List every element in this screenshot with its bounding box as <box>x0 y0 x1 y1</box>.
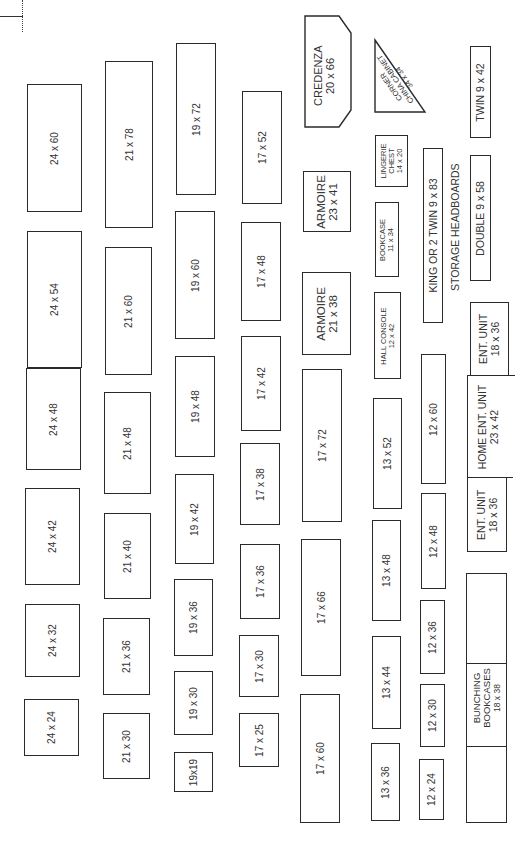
piece-label: 17 x 38 <box>255 468 266 501</box>
piece-label: 19 x 42 <box>189 503 200 536</box>
piece-17x48[interactable]: 17 x 48 <box>241 222 281 321</box>
piece-19x72[interactable]: 19 x 72 <box>176 43 216 195</box>
piece-label: 24 x 60 <box>49 132 60 165</box>
piece-12x30[interactable]: 12 x 30 <box>420 684 445 747</box>
piece-label: 12 x 30 <box>427 699 438 732</box>
piece-label: 21 x 40 <box>122 540 133 573</box>
credenza-label: CREDENZA 20 x 66 <box>312 46 336 106</box>
piece-label: TWIN 9 x 42 <box>475 63 486 121</box>
piece-24x60[interactable]: 24 x 60 <box>27 84 82 212</box>
ent-unit-top-tick <box>508 375 515 376</box>
piece-label: 17 x 48 <box>256 255 267 288</box>
piece-12x36[interactable]: 12 x 36 <box>420 600 445 674</box>
piece-label: 19 x 60 <box>190 259 201 292</box>
piece-17x42[interactable]: 17 x 42 <box>241 336 281 431</box>
piece-ent-unit-bottom[interactable]: ENT. UNIT18 x 36 <box>467 477 507 552</box>
piece-label: 21 x 48 <box>122 427 133 460</box>
piece-24x54[interactable]: 24 x 54 <box>27 231 82 368</box>
piece-label: 12 x 60 <box>428 403 439 436</box>
piece-21x40[interactable]: 21 x 40 <box>104 513 151 599</box>
piece-label: ARMOIRE21 x 38 <box>315 287 339 341</box>
piece-label: 13 x 44 <box>381 666 392 699</box>
piece-13x36[interactable]: 13 x 36 <box>371 743 400 821</box>
piece-label: 17 x 52 <box>257 131 268 164</box>
piece-19x42[interactable]: 19 x 42 <box>175 474 214 564</box>
piece-13x48[interactable]: 13 x 48 <box>372 520 401 621</box>
piece-13x44[interactable]: 13 x 44 <box>372 636 401 729</box>
piece-24x24[interactable]: 24 x 24 <box>24 699 79 756</box>
piece-label: DOUBLE 9 x 58 <box>475 181 486 256</box>
piece-label: 17 x 36 <box>255 565 266 598</box>
credenza-name: CREDENZA <box>312 46 324 106</box>
piece-21x48[interactable]: 21 x 48 <box>104 392 151 494</box>
piece-19x19[interactable]: 19x19 <box>174 752 213 792</box>
piece-ent-unit-top[interactable]: ENT. UNIT18 x 36 <box>470 302 509 376</box>
piece-label: 19 x 36 <box>188 601 199 634</box>
bunching-divider-2 <box>466 746 507 747</box>
piece-label: 24 x 54 <box>49 283 60 316</box>
piece-19x36[interactable]: 19 x 36 <box>174 579 213 656</box>
piece-double-headboard[interactable]: DOUBLE 9 x 58 <box>470 155 491 281</box>
piece-label: 19 x 72 <box>191 103 202 136</box>
piece-twin-headboard[interactable]: TWIN 9 x 42 <box>470 46 491 138</box>
piece-label: 17 x 60 <box>315 742 326 775</box>
piece-armoire-21x38[interactable]: ARMOIRE21 x 38 <box>302 272 351 355</box>
piece-king-headboard[interactable]: KING OR 2 TWIN 9 x 83 <box>423 148 443 323</box>
piece-label: 12 x 36 <box>427 621 438 654</box>
piece-19x60[interactable]: 19 x 60 <box>175 211 215 339</box>
piece-17x52[interactable]: 17 x 52 <box>242 91 282 204</box>
piece-label: 24 x 42 <box>47 520 58 553</box>
piece-bookcase[interactable]: BOOKCASE11 x 34 <box>375 202 399 277</box>
piece-bunching-bookcases[interactable]: BUNCHING BOOKCASES 18 x 38 <box>466 573 507 823</box>
piece-21x78[interactable]: 21 x 78 <box>105 61 153 228</box>
piece-17x72[interactable]: 17 x 72 <box>302 369 342 522</box>
corner-crop-mark <box>0 0 23 17</box>
piece-label: 13 x 36 <box>380 766 391 799</box>
piece-label: ENT. UNIT18 x 36 <box>478 314 502 364</box>
bunching-divider-1 <box>466 663 507 664</box>
piece-12x48[interactable]: 12 x 48 <box>421 493 446 589</box>
piece-label: 12 x 24 <box>426 773 437 806</box>
piece-label: 21 x 36 <box>121 640 132 673</box>
piece-label: 13 x 52 <box>382 437 393 470</box>
piece-17x36[interactable]: 17 x 36 <box>240 544 280 619</box>
piece-24x48[interactable]: 24 x 48 <box>26 368 81 470</box>
piece-label: 21 x 60 <box>123 295 134 328</box>
piece-12x60[interactable]: 12 x 60 <box>421 354 446 484</box>
piece-label: ENT. UNIT18 x 36 <box>475 489 499 539</box>
piece-lingerie-chest[interactable]: LINGERIECHEST14 x 20 <box>375 135 408 187</box>
piece-label: 19 x 30 <box>188 687 199 720</box>
piece-label: 19 x 48 <box>190 390 201 423</box>
piece-label: BOOKCASE11 x 34 <box>379 218 395 260</box>
piece-label: 24 x 32 <box>47 624 58 657</box>
piece-21x30[interactable]: 21 x 30 <box>103 713 150 779</box>
piece-label: 24 x 24 <box>46 711 57 744</box>
piece-19x30[interactable]: 19 x 30 <box>174 671 213 735</box>
piece-label: 17 x 25 <box>254 724 265 757</box>
piece-12x24[interactable]: 12 x 24 <box>419 759 444 820</box>
piece-label: 17 x 30 <box>254 650 265 683</box>
piece-19x48[interactable]: 19 x 48 <box>175 356 215 457</box>
piece-label: 12 x 48 <box>428 525 439 558</box>
piece-armoire-23x41[interactable]: ARMOIRE23 x 41 <box>303 171 351 232</box>
piece-17x66[interactable]: 17 x 66 <box>301 539 341 676</box>
piece-24x42[interactable]: 24 x 42 <box>25 488 80 585</box>
piece-17x25[interactable]: 17 x 25 <box>239 713 279 767</box>
piece-label: 21 x 78 <box>124 128 135 161</box>
piece-home-ent-unit[interactable]: HOME ENT. UNIT23 x 42 <box>467 375 509 478</box>
piece-13x52[interactable]: 13 x 52 <box>373 398 402 509</box>
piece-17x38[interactable]: 17 x 38 <box>240 443 280 525</box>
storage-headboards-caption: STORAGE HEADBOARDS <box>449 171 461 291</box>
credenza-dim: 20 x 66 <box>324 46 336 106</box>
piece-21x60[interactable]: 21 x 60 <box>105 247 152 375</box>
piece-label: BUNCHING BOOKCASES 18 x 38 <box>472 668 502 728</box>
piece-17x60[interactable]: 17 x 60 <box>300 694 340 823</box>
piece-24x32[interactable]: 24 x 32 <box>25 604 80 677</box>
piece-label: HALL CONSOLE12 x 42 <box>380 307 396 364</box>
piece-label: 17 x 72 <box>317 429 328 462</box>
piece-hall-console[interactable]: HALL CONSOLE12 x 42 <box>374 292 401 379</box>
piece-17x30[interactable]: 17 x 30 <box>239 635 279 697</box>
piece-label: 17 x 42 <box>256 367 267 400</box>
piece-21x36[interactable]: 21 x 36 <box>103 618 150 695</box>
piece-label: 24 x 48 <box>48 403 59 436</box>
